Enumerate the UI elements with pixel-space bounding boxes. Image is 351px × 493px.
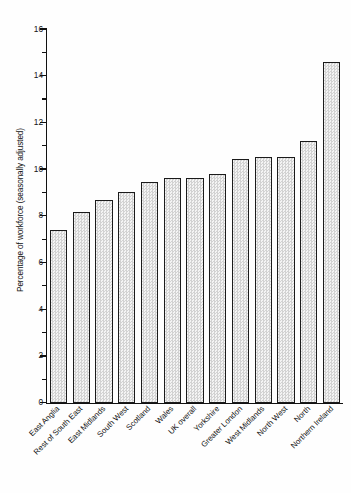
y-axis-major-tick	[40, 215, 47, 216]
x-axis-tick-label: North	[164, 404, 312, 493]
x-axis-tick-label: Greater London	[96, 404, 244, 493]
y-axis-major-tick	[40, 75, 47, 76]
y-axis-minor-tick	[42, 239, 47, 240]
bar	[255, 157, 272, 403]
bar	[323, 62, 340, 403]
x-axis-tick-label: Wales	[28, 404, 176, 493]
x-axis-tick-label: South West	[0, 404, 130, 493]
bar	[141, 182, 158, 403]
bar	[50, 230, 67, 403]
bar	[209, 174, 226, 403]
bar	[164, 178, 181, 403]
x-axis-tick-label: Yorkshire	[73, 404, 221, 493]
bar-chart-figure: Percentage of workforce (seasonally adju…	[0, 0, 351, 493]
bar	[118, 192, 135, 403]
y-axis-major-tick	[40, 309, 47, 310]
y-axis-major-tick	[40, 355, 47, 356]
y-axis-minor-tick	[42, 145, 47, 146]
bar	[95, 200, 112, 403]
y-axis-minor-tick	[42, 285, 47, 286]
x-axis-tick-label: West Midlands	[119, 404, 267, 493]
bar	[73, 212, 90, 403]
y-axis-major-tick	[40, 262, 47, 263]
x-axis-tick-label: North West	[141, 404, 289, 493]
y-axis-major-tick	[40, 402, 47, 403]
bar	[232, 159, 249, 403]
y-axis-minor-tick	[42, 52, 47, 53]
y-axis-minor-tick	[42, 192, 47, 193]
y-axis-major-tick	[40, 28, 47, 29]
x-axis-tick-label: East Midlands	[0, 404, 107, 493]
bar	[186, 178, 203, 403]
y-axis-minor-tick	[42, 379, 47, 380]
x-axis-tick-label: Northern Ireland	[187, 404, 335, 493]
y-axis-minor-tick	[42, 332, 47, 333]
y-axis-major-tick	[40, 122, 47, 123]
y-axis-major-tick	[40, 168, 47, 169]
x-axis-tick-label: UK overall	[50, 404, 198, 493]
plot-area	[47, 29, 343, 403]
y-axis-tick-labels: 0246810121416	[23, 0, 43, 493]
y-axis-minor-tick	[42, 98, 47, 99]
bar	[300, 141, 317, 403]
bar	[277, 157, 294, 403]
